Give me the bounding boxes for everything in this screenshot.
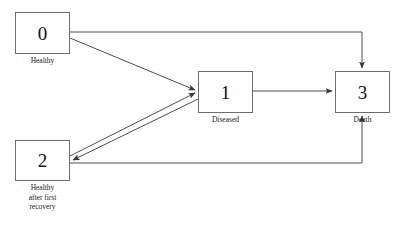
node-state-2-id: 2 xyxy=(38,151,48,170)
node-state-2-label: Healthy after first recovery xyxy=(15,183,70,212)
node-state-3-id: 3 xyxy=(358,83,368,102)
edge-healthy-to-death xyxy=(70,32,362,68)
node-state-0-box: 0 xyxy=(15,12,70,54)
node-state-1-label: Diseased xyxy=(198,115,253,125)
node-state-1-box: 1 xyxy=(198,71,253,113)
node-state-3[interactable]: 3 Death xyxy=(335,71,390,113)
node-state-0-label: Healthy xyxy=(15,56,70,66)
node-state-0[interactable]: 0 Healthy xyxy=(15,12,70,54)
node-state-0-id: 0 xyxy=(38,24,48,43)
edge-healthy-to-diseased xyxy=(70,38,195,90)
edge-diseased-to-recovered xyxy=(73,99,198,160)
node-state-1-id: 1 xyxy=(221,83,231,102)
state-transition-diagram: 0 Healthy 1 Diseased 2 Healthy after fir… xyxy=(0,0,401,225)
node-state-2-box: 2 xyxy=(15,140,70,181)
node-state-3-label: Death xyxy=(335,115,390,125)
node-state-1[interactable]: 1 Diseased xyxy=(198,71,253,113)
node-state-3-box: 3 xyxy=(335,71,390,113)
node-state-2[interactable]: 2 Healthy after first recovery xyxy=(15,140,70,181)
edge-recovered-to-diseased xyxy=(70,93,195,156)
